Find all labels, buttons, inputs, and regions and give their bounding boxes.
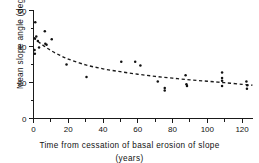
data-point: [163, 87, 166, 90]
data-point: [35, 35, 38, 38]
data-point: [184, 74, 187, 77]
x-tick-label: 20: [64, 125, 73, 134]
data-point: [51, 38, 54, 41]
x-axis-title-units: (years): [116, 154, 144, 163]
x-tick-label: 120: [235, 125, 249, 134]
data-point: [163, 89, 166, 92]
y-tick-label: 0: [22, 115, 27, 124]
data-point: [34, 21, 37, 24]
x-tick-label: 60: [133, 125, 142, 134]
data-point: [246, 84, 249, 87]
data-point: [221, 77, 224, 80]
data-point: [37, 40, 40, 43]
x-tick-label: 40: [99, 125, 108, 134]
y-axis-title-wrapper: Mean slope angle (degrees): [9, 0, 23, 89]
trend-line: [34, 38, 253, 86]
data-point: [44, 30, 47, 33]
data-point: [157, 80, 160, 83]
data-point: [34, 52, 37, 55]
data-point: [221, 71, 224, 74]
data-point: [245, 80, 248, 83]
x-tick-label: 0: [31, 125, 36, 134]
y-axis-title: Mean slope angle (degrees): [16, 0, 25, 89]
data-point: [33, 49, 36, 52]
data-point: [221, 85, 224, 88]
data-point: [38, 46, 41, 49]
x-tick-label: 100: [201, 125, 215, 134]
data-point: [120, 61, 123, 64]
data-point: [139, 64, 142, 67]
chart-figure: 0204060801001200204060 Mean slope angle …: [0, 0, 259, 163]
data-point: [186, 85, 189, 88]
x-tick-label: 80: [168, 125, 177, 134]
data-point: [221, 79, 224, 82]
x-axis-title-line2: (years): [0, 147, 259, 163]
data-point: [134, 61, 137, 64]
data-point: [65, 63, 68, 66]
data-point: [45, 43, 48, 46]
data-point: [85, 76, 88, 79]
data-point: [246, 88, 249, 91]
